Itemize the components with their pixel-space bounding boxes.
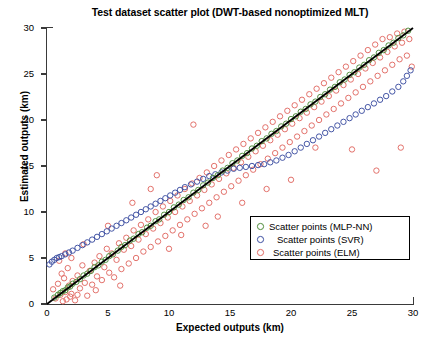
data-point [93, 288, 98, 293]
data-point [359, 108, 364, 113]
x-tick-label: 30 [400, 307, 426, 318]
data-point [294, 134, 299, 139]
data-point [211, 163, 216, 168]
data-point [187, 198, 192, 203]
data-point [353, 90, 358, 95]
data-point [104, 246, 109, 251]
data-point [274, 158, 279, 163]
scatter-plot-figure: Test dataset scatter plot (DWT-based non… [0, 0, 430, 351]
data-point [304, 110, 309, 115]
data-point [249, 163, 254, 168]
data-point [363, 66, 368, 71]
data-point [374, 168, 379, 173]
legend-marker-elm-icon [251, 248, 269, 257]
data-point [398, 145, 403, 150]
data-point [353, 112, 358, 117]
data-point [170, 228, 175, 233]
data-point [141, 249, 146, 254]
data-point [261, 161, 266, 166]
legend-label-elm: Scatter points (ELM) [269, 247, 360, 258]
data-point [304, 141, 309, 146]
data-point [131, 228, 136, 233]
data-point [349, 147, 354, 152]
data-point [324, 112, 329, 117]
data-point [89, 282, 94, 287]
data-point [85, 293, 90, 298]
data-point [277, 114, 282, 119]
data-point [148, 244, 153, 249]
data-point [118, 283, 123, 288]
data-point [107, 270, 112, 275]
data-point [216, 176, 221, 181]
data-point [302, 128, 307, 133]
data-point [313, 145, 318, 150]
legend-marker-svr-icon [251, 235, 269, 244]
x-tick-label: 10 [156, 307, 182, 318]
data-point [160, 204, 165, 209]
legend-item-elm[interactable]: Scatter points (ELM) [251, 246, 409, 259]
data-point [124, 235, 129, 240]
legend-label-mlp-nn: Scatter points (MLP-NN) [269, 221, 372, 232]
data-point [338, 101, 343, 106]
data-point [250, 167, 255, 172]
data-point [233, 147, 238, 152]
one-to-one-reference-line [47, 28, 413, 304]
data-point [138, 222, 143, 227]
data-point [280, 155, 285, 160]
data-point [243, 173, 248, 178]
data-point [111, 275, 116, 280]
data-point [321, 81, 326, 86]
data-point [200, 176, 205, 181]
data-point [298, 145, 303, 150]
data-point [382, 68, 387, 73]
x-tick-label: 20 [278, 307, 304, 318]
data-point [166, 246, 171, 251]
data-point [80, 263, 85, 268]
data-point [192, 211, 197, 216]
data-point [316, 117, 321, 122]
data-point [214, 195, 219, 200]
data-point [335, 123, 340, 128]
x-axis-label: Expected outputs (km) [47, 322, 413, 333]
plot-area [47, 28, 413, 304]
data-point [179, 232, 184, 237]
data-point [365, 47, 370, 52]
data-point [401, 79, 406, 84]
data-point [185, 217, 190, 222]
data-point [203, 223, 208, 228]
data-point [336, 69, 341, 74]
data-point [240, 200, 245, 205]
legend-item-svr[interactable]: Scatter points (SVR) [251, 233, 409, 246]
data-point [126, 261, 131, 266]
data-point [270, 119, 275, 124]
data-point [347, 115, 352, 120]
data-point [153, 209, 158, 214]
data-point [377, 97, 382, 102]
x-tick-label: 0 [34, 307, 60, 318]
data-point [72, 298, 77, 303]
data-point [102, 265, 107, 270]
data-point [246, 154, 251, 159]
y-axis-label: Estimated outputs (km) [19, 47, 30, 247]
y-tick-label: 30 [8, 22, 34, 33]
data-point [285, 108, 290, 113]
data-point [409, 64, 414, 69]
y-tick-label: 5 [8, 252, 34, 263]
data-point [99, 277, 104, 282]
data-point [360, 84, 365, 89]
data-point [322, 130, 327, 135]
data-point [177, 222, 182, 227]
data-point [207, 200, 212, 205]
data-point [191, 122, 196, 127]
data-point [114, 257, 119, 262]
legend-marker-mlp-nn-icon [251, 222, 269, 231]
data-point [371, 101, 376, 106]
data-point [75, 292, 80, 297]
data-point [229, 184, 234, 189]
data-point [243, 164, 248, 169]
data-point [346, 95, 351, 100]
data-point [387, 35, 392, 40]
data-point [329, 127, 334, 132]
data-point [128, 243, 133, 248]
legend-item-mlp-nn[interactable]: Scatter points (MLP-NN) [251, 220, 409, 233]
